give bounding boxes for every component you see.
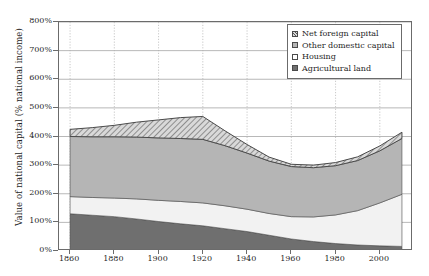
y-tick-mark [53, 250, 58, 251]
x-tick-label: 1960 [270, 254, 310, 263]
x-tick-mark [113, 250, 114, 254]
legend-label: Housing [302, 51, 336, 63]
legend-label: Net foreign capital [302, 28, 379, 40]
legend-swatch-icon [292, 65, 298, 71]
x-tick-mark [246, 250, 247, 254]
legend-swatch-icon [292, 54, 298, 60]
x-tick-label: 1940 [226, 254, 266, 263]
x-tick-mark [290, 250, 291, 254]
legend-swatch-icon [292, 31, 298, 37]
legend-item[interactable]: Other domestic capital [292, 40, 395, 52]
x-tick-label: 1880 [93, 254, 133, 263]
chart-figure: Value of national capital (% national in… [0, 0, 429, 276]
x-tick-label: 1900 [138, 254, 178, 263]
y-tick-label: 200% [0, 188, 52, 197]
x-tick-label: 2000 [359, 254, 399, 263]
legend-label: Agricultural land [302, 63, 371, 75]
y-tick-label: 0% [0, 245, 52, 254]
legend-swatch-icon [292, 42, 298, 48]
x-tick-label: 1920 [182, 254, 222, 263]
x-tick-mark [69, 250, 70, 254]
x-tick-label: 1860 [49, 254, 89, 263]
y-tick-label: 500% [0, 102, 52, 111]
x-tick-label: 1980 [315, 254, 355, 263]
y-tick-label: 100% [0, 216, 52, 225]
x-tick-mark [335, 250, 336, 254]
chart-legend: Net foreign capitalOther domestic capita… [287, 24, 402, 79]
y-tick-label: 700% [0, 45, 52, 54]
x-tick-mark [379, 250, 380, 254]
legend-item[interactable]: Agricultural land [292, 63, 395, 75]
x-tick-mark [158, 250, 159, 254]
y-tick-label: 600% [0, 73, 52, 82]
y-tick-label: 800% [0, 16, 52, 25]
y-tick-label: 300% [0, 159, 52, 168]
legend-label: Other domestic capital [302, 40, 395, 52]
legend-item[interactable]: Net foreign capital [292, 28, 395, 40]
y-tick-label: 400% [0, 131, 52, 140]
x-tick-mark [202, 250, 203, 254]
legend-item[interactable]: Housing [292, 51, 395, 63]
